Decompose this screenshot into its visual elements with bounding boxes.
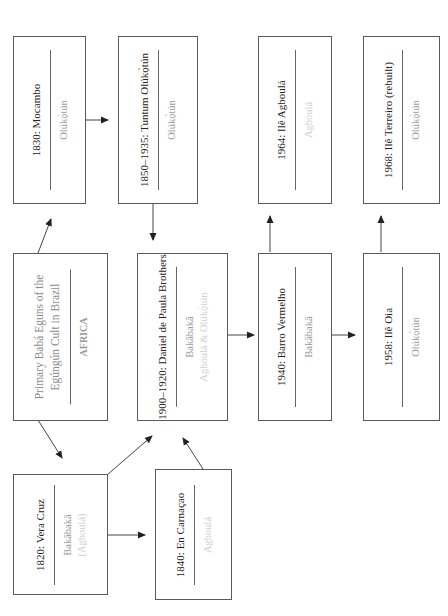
node-title: 1820: Vera Cruz — [33, 499, 47, 571]
node-title: 1958: Ilê Oia — [381, 308, 395, 366]
divider — [176, 267, 177, 407]
node-title: 1968: Ilê Terreiro (rebuilt) — [381, 62, 395, 178]
divider — [402, 267, 403, 407]
node-title: 1940: Barro Vermelho — [274, 288, 288, 386]
node-subtitle: AFRICA — [77, 318, 91, 357]
node-subtitle: Bakābakā — [61, 514, 75, 555]
node-vera-cruz: 1820: Vera Cruz Bakābakā (Agboulá) — [13, 474, 108, 595]
node-paula: 1900–1920: Daniel de Paula Brothers Bakā… — [137, 253, 228, 421]
node-subtitle-2: Agboulá & Olúkọ̀tún — [197, 292, 211, 381]
node-subtitle: Olúkọ̀tún — [57, 100, 71, 140]
node-subtitle: Bakābakā — [183, 316, 197, 357]
divider — [158, 50, 159, 190]
node-subtitle: Olúkọ̀tún — [409, 100, 423, 140]
node-title-line-1: Primary Babá Eguns of the — [31, 275, 47, 400]
node-mocambo: 1830: Mocambo Olúkọ̀tún — [13, 36, 86, 204]
divider — [194, 485, 195, 585]
node-ile-terreiro: 1968: Ilê Terreiro (rebuilt) Olúkọ̀tún — [363, 36, 440, 204]
node-tuntum: 1850–1935: Tuntum Olúkọ̀tún Olúkọ̀tún — [118, 36, 198, 204]
divider — [54, 485, 55, 585]
node-subtitle-2: (Agboulá) — [75, 513, 89, 556]
node-title: 1830: Mocambo — [29, 84, 43, 156]
node-subtitle: Olúkọ̀tún — [409, 317, 423, 357]
node-title: 1900–1920: Daniel de Paula Brothers — [155, 254, 169, 420]
node-subtitle: Agboulá — [302, 102, 316, 138]
node-barro-vermelho: 1940: Barro Vermelho Bakābakā — [258, 253, 332, 421]
divider — [295, 50, 296, 190]
node-africa: Primary Babá Eguns of the Egúngún Cult i… — [13, 253, 108, 421]
node-ile-oia: 1958: Ilê Oia Olúkọ̀tún — [363, 253, 440, 421]
node-carnacao: 1840: En Carnaçao Agboulá — [155, 469, 232, 600]
node-subtitle: Agboulá — [201, 516, 215, 552]
node-title: 1964: Ilê Agboulá — [274, 80, 288, 159]
node-title: 1840: En Carnaçao — [173, 492, 187, 576]
node-title: 1850–1935: Tuntum Olúkọ̀tún — [137, 53, 151, 187]
divider — [70, 270, 71, 405]
divider — [402, 50, 403, 190]
divider — [295, 267, 296, 407]
node-subtitle: Bakābakā — [302, 316, 316, 357]
node-subtitle: Olúkọ̀tún — [165, 100, 179, 140]
node-ile-agboula: 1964: Ilê Agboulá Agboulá — [258, 36, 332, 204]
divider — [50, 50, 51, 190]
node-title-line-2: Egúngún Cult in Brazil — [47, 284, 63, 391]
